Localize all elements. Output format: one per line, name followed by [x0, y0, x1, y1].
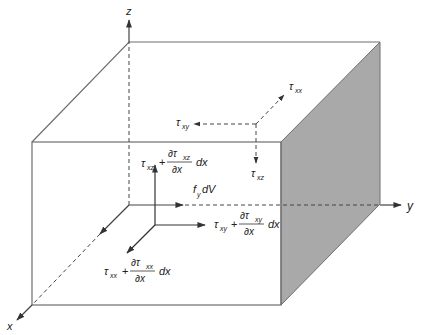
y-axis-label: y	[406, 199, 414, 213]
svg-text:τ: τ	[104, 265, 109, 277]
svg-text:τ: τ	[141, 157, 146, 169]
svg-text:xz: xz	[182, 154, 191, 161]
svg-text:∂τ: ∂τ	[168, 148, 178, 159]
svg-text:xx: xx	[109, 272, 118, 279]
svg-text:+: +	[231, 218, 237, 230]
svg-text:xx: xx	[145, 263, 154, 270]
svg-text:xy: xy	[219, 225, 228, 233]
svg-text:τ: τ	[251, 167, 256, 179]
z-axis-label: z	[125, 5, 132, 17]
label-tau-xz-back: τ xz	[251, 167, 265, 181]
label-tau-xy-back: τ xy	[176, 116, 190, 131]
svg-text:xz: xz	[256, 174, 265, 181]
svg-text:y: y	[196, 191, 201, 199]
back-face-stress-arrows	[194, 95, 284, 163]
shaded-right-face	[281, 42, 380, 305]
x-axis	[17, 205, 129, 320]
stress-element-diagram: z y x τ xx τ xy τ xz τ xz + ∂τ xz ∂x dx …	[0, 0, 423, 335]
x-axis-label: x	[6, 320, 13, 332]
svg-text:∂τ: ∂τ	[240, 210, 250, 221]
front-face-stress-arrows	[127, 165, 205, 253]
svg-text:xy: xy	[254, 216, 263, 224]
svg-text:xz: xz	[146, 164, 155, 171]
label-tau-xz-front: τ xz + ∂τ xz ∂x dx	[141, 148, 208, 175]
label-tau-xy-front: τ xy + ∂τ xy ∂x dx	[214, 210, 280, 237]
svg-text:xy: xy	[181, 123, 190, 131]
svg-text:dx: dx	[268, 218, 280, 230]
svg-text:xx: xx	[294, 87, 303, 94]
svg-text:τ: τ	[176, 116, 181, 128]
svg-text:∂τ: ∂τ	[131, 257, 141, 268]
svg-text:τ: τ	[214, 218, 219, 230]
svg-text:+: +	[159, 156, 165, 168]
svg-text:dx: dx	[159, 265, 171, 277]
svg-text:dx: dx	[196, 156, 208, 168]
diagram-svg: z y x τ xx τ xy τ xz τ xz + ∂τ xz ∂x dx …	[0, 0, 423, 335]
svg-text:∂x: ∂x	[135, 273, 146, 284]
label-tau-xx-back: τ xx	[289, 80, 303, 94]
svg-text:∂x: ∂x	[244, 226, 255, 237]
svg-text:τ: τ	[289, 80, 294, 92]
svg-text:∂x: ∂x	[172, 164, 183, 175]
label-body-force: f y dV	[193, 183, 217, 199]
svg-text:+: +	[122, 265, 128, 277]
svg-text:dV: dV	[202, 183, 217, 195]
label-tau-xx-front: τ xx + ∂τ xx ∂x dx	[104, 257, 171, 284]
